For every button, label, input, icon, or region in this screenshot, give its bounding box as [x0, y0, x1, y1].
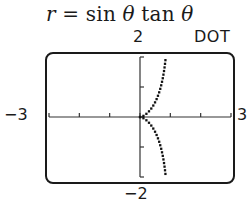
curve-dot — [148, 110, 150, 112]
curve-dot — [159, 144, 161, 146]
curve-dot — [161, 81, 163, 83]
curve-dot — [164, 169, 166, 171]
curve-dot — [150, 107, 152, 109]
curve-dot — [164, 173, 166, 175]
curve-dot — [158, 91, 160, 93]
curve-dot — [158, 141, 160, 143]
curve-dot — [162, 74, 164, 76]
curve-dot — [139, 116, 141, 118]
curve-dot — [150, 124, 152, 126]
curve-dot — [160, 84, 162, 86]
curve-dot — [157, 95, 159, 97]
curve-dot — [152, 104, 154, 106]
curve-dot — [162, 77, 164, 79]
curve-dot — [163, 162, 165, 164]
curve-dot — [163, 70, 165, 72]
curve-dot — [142, 117, 144, 119]
curve-dot — [162, 155, 164, 157]
curve-dot — [145, 113, 147, 115]
curve-dot — [157, 137, 159, 139]
curve-dot — [152, 127, 154, 129]
curve-dot — [154, 101, 156, 103]
curve-dot — [148, 122, 150, 124]
curve-dot — [164, 63, 166, 65]
curve-dot — [159, 88, 161, 90]
curve-dot — [161, 151, 163, 153]
curve-dot — [154, 131, 156, 133]
curve-dot — [145, 119, 147, 121]
curve-dot — [155, 98, 157, 100]
curve-dot — [164, 59, 166, 61]
curve-dot — [163, 166, 165, 168]
curve-dot — [162, 158, 164, 160]
curve-dot — [163, 66, 165, 68]
curve-dot — [155, 134, 157, 136]
curve-dot — [160, 148, 162, 150]
plot-area — [0, 0, 252, 210]
curve-dot — [142, 115, 144, 117]
